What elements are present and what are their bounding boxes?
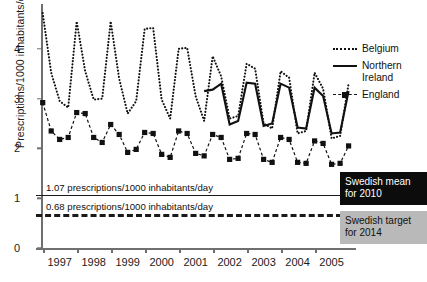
x-tick-label-2003: 2003 [251,256,275,268]
data-point-marker [193,151,198,156]
y-axis-label: Prescriptions/1000 inhabitants/day [14,0,26,161]
data-point-marker [151,131,156,136]
data-point-marker [219,135,224,140]
legend-item-northern-ireland: Northern Ireland [333,60,402,84]
data-point-marker [40,100,45,105]
data-point-marker [270,160,275,165]
reference-line-1.07 [36,195,340,196]
chart-legend: Belgium Northern Ireland England [333,43,402,106]
x-tick-label-2005: 2005 [319,256,343,268]
x-tick-label-2004: 2004 [285,256,309,268]
data-point-marker [287,137,292,142]
x-tick-label-1997: 1997 [47,256,71,268]
data-point-marker [278,135,283,140]
data-point-marker [100,140,105,145]
x-tick-mark-2003 [247,248,248,253]
x-tick-mark-1999 [111,248,112,253]
x-tick-label-1999: 1999 [115,256,139,268]
series-line-belgium [43,13,349,138]
data-point-marker [338,161,343,166]
data-point-marker [312,138,317,143]
data-point-marker [159,152,164,157]
x-tick-label-1998: 1998 [81,256,105,268]
legend-label-belgium: Belgium [362,43,399,55]
legend-item-belgium: Belgium [333,43,402,55]
data-point-marker [168,155,173,160]
x-tick-mark-2005 [315,248,316,253]
legend-swatch-solid-icon [333,60,357,72]
reference-line-label-1.07: 1.07 prescriptions/1000 inhabitants/day [46,182,213,193]
data-point-marker [57,137,62,142]
data-point-marker [329,162,334,167]
x-tick-mark-2004 [281,248,282,253]
data-point-marker [321,141,326,146]
legend-label-northern-ireland: Northern Ireland [362,60,402,84]
x-tick-label-2001: 2001 [183,256,207,268]
data-point-marker [202,153,207,158]
data-point-marker [261,157,266,162]
data-point-marker [253,132,258,137]
data-point-marker [125,150,130,155]
data-point-marker [91,135,96,140]
legend-swatch-dashed-square-icon [333,89,357,101]
data-point-marker [142,130,147,135]
data-point-marker [66,135,71,140]
reference-line-0.68 [36,214,342,217]
data-point-marker [227,157,232,162]
data-point-marker [236,156,241,161]
x-tick-mark-1997 [43,248,44,253]
data-point-marker [134,147,139,152]
data-point-marker [304,161,309,166]
legend-label-england: England [362,89,399,101]
y-tick-label-0: 0 [14,242,20,254]
x-tick-label-2002: 2002 [217,256,241,268]
series-line-northern-ireland [204,83,348,134]
data-point-marker [74,110,79,115]
x-tick-mark-1998 [77,248,78,253]
data-point-marker [185,131,190,136]
callout-swedish-target-text: Swedish target for 2014 [345,215,411,238]
x-tick-mark-2001 [179,248,180,253]
reference-line-label-0.68: 0.68 prescriptions/1000 inhabitants/day [46,201,213,212]
callout-swedish-mean-text: Swedish mean for 2010 [345,176,411,199]
data-point-marker [295,160,300,165]
callout-swedish-mean: Swedish mean for 2010 [340,172,427,205]
x-tick-mark-2000 [145,248,146,253]
x-tick-mark-2002 [213,248,214,253]
y-tick-label-1: 1 [14,192,20,204]
data-point-marker [176,128,181,133]
x-tick-label-2000: 2000 [149,256,173,268]
legend-swatch-dotted-icon [333,43,357,55]
x-axis-line [36,248,356,250]
callout-swedish-target: Swedish target for 2014 [340,211,427,244]
data-point-marker [346,143,351,148]
data-point-marker [117,132,122,137]
data-point-marker [244,131,249,136]
data-point-marker [210,132,215,137]
data-point-marker [83,111,88,116]
legend-item-england: England [333,89,402,101]
data-point-marker [108,122,113,127]
data-point-marker [49,128,54,133]
y-tick-label-2: 2 [14,142,20,154]
chart-container: Prescriptions/1000 inhabitants/day 01234… [0,0,427,282]
y-tick-label-4: 4 [14,43,20,55]
y-tick-label-3: 3 [14,93,20,105]
